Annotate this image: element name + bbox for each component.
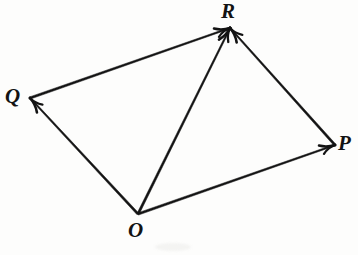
vertex-label-R: R [221,1,235,22]
vertex-label-O: O [128,220,143,241]
vector-diagram-canvas [0,0,358,255]
vertex-label-Q: Q [5,86,20,107]
vector-OQ [29,97,139,215]
vector-diagram-figure: R Q P O [0,0,358,255]
vertex-label-P: P [338,133,351,154]
vector-layer [29,27,337,216]
vector-PR [229,27,336,146]
